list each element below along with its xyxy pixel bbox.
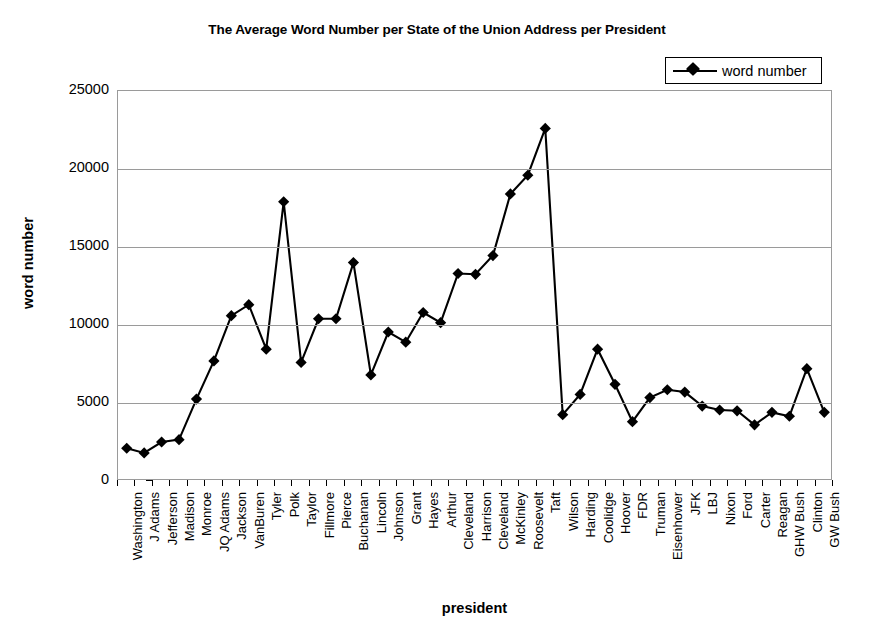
- x-axis-tick-label: Cleveland: [497, 492, 510, 550]
- x-axis-tick-mark: [396, 480, 397, 486]
- x-axis-tick-mark: [570, 480, 571, 486]
- x-axis-tick-label: Lincoln: [375, 492, 388, 533]
- x-axis-tick-mark: [675, 480, 676, 486]
- x-axis-tick-label: JQ Adams: [218, 492, 231, 552]
- x-axis-tick-label: Fillmore: [323, 492, 336, 538]
- x-axis-tick-label: FDR: [636, 492, 649, 519]
- chart-container: The Average Word Number per State of the…: [0, 0, 874, 635]
- x-axis-tick-label: Buchanan: [357, 492, 370, 551]
- x-axis-tick-label: JFK: [689, 492, 702, 515]
- y-axis-tick-label: 0: [39, 472, 109, 487]
- data-point-marker: [156, 436, 167, 447]
- x-axis-tick-mark: [134, 480, 135, 486]
- x-axis-tick-mark: [448, 480, 449, 486]
- data-point-marker: [400, 337, 411, 348]
- y-axis-tick-labels: 0500010000150002000025000: [35, 0, 109, 635]
- x-axis-tick-mark: [518, 480, 519, 486]
- data-point-marker: [435, 317, 446, 328]
- chart-title: The Average Word Number per State of the…: [0, 22, 874, 37]
- x-axis-tick-label: Ford: [741, 492, 754, 519]
- x-axis-tick-mark: [623, 480, 624, 486]
- x-axis-tick-label: VanBuren: [253, 492, 266, 549]
- x-axis-tick-mark: [815, 480, 816, 486]
- legend-label: word number: [722, 63, 807, 79]
- x-axis-tick-label: Carter: [759, 492, 772, 528]
- x-axis-tick-mark: [745, 480, 746, 486]
- x-axis-tick-mark: [501, 480, 502, 486]
- x-axis-tick-mark: [239, 480, 240, 486]
- x-axis-tick-label: Johnson: [392, 492, 405, 541]
- data-point-marker: [208, 355, 219, 366]
- y-axis-tick-label: 5000: [39, 394, 109, 409]
- data-point-marker: [348, 257, 359, 268]
- x-axis-tick-mark: [379, 480, 380, 486]
- x-axis-tick-mark: [692, 480, 693, 486]
- x-axis-tick-mark: [762, 480, 763, 486]
- x-axis-tick-mark: [588, 480, 589, 486]
- x-axis-tick-label: Jackson: [235, 492, 248, 540]
- x-axis-tick-mark: [222, 480, 223, 486]
- x-axis-tick-label: Jefferson: [166, 492, 179, 545]
- x-axis-tick-mark: [117, 480, 118, 486]
- x-axis-tick-label: LBJ: [706, 492, 719, 514]
- x-axis-tick-label: Arthur: [445, 492, 458, 527]
- x-axis-tick-mark: [204, 480, 205, 486]
- y-axis-tick-label: 10000: [39, 316, 109, 331]
- chart-legend: word number: [665, 57, 822, 84]
- x-axis-tick-mark: [658, 480, 659, 486]
- x-axis-tick-label: Hayes: [427, 492, 440, 529]
- x-axis-tick-mark: [483, 480, 484, 486]
- data-point-marker: [139, 447, 150, 458]
- x-axis-tick-label: Pierce: [340, 492, 353, 529]
- x-axis-tick-mark: [257, 480, 258, 486]
- x-axis-title: president: [117, 600, 832, 616]
- x-axis-tick-mark: [291, 480, 292, 486]
- x-axis-tick-label: GW Bush: [828, 492, 841, 548]
- data-point-marker: [609, 379, 620, 390]
- x-axis-tick-label: Roosevelt: [532, 492, 545, 550]
- data-point-marker: [592, 344, 603, 355]
- x-axis-tick-label: Hoover: [619, 492, 632, 534]
- x-axis-tick-label: Nixon: [724, 492, 737, 525]
- x-axis-tick-label: Eisenhower: [671, 492, 684, 560]
- x-axis-tick-mark: [780, 480, 781, 486]
- x-axis-tick-mark: [797, 480, 798, 486]
- gridline: [118, 403, 831, 404]
- x-axis-tick-mark: [727, 480, 728, 486]
- y-axis-title: word number: [20, 168, 36, 358]
- x-axis-tick-mark: [274, 480, 275, 486]
- x-axis-tick-label: Coolidge: [602, 492, 615, 543]
- x-axis-tick-mark: [187, 480, 188, 486]
- data-point-marker: [819, 407, 830, 418]
- x-axis-tick-label: Cleveland: [462, 492, 475, 550]
- x-axis-tick-mark: [431, 480, 432, 486]
- plot-area: [117, 90, 832, 480]
- x-axis-tick-label: GHW Bush: [793, 492, 806, 557]
- x-axis-tick-label: Clinton: [811, 492, 824, 532]
- x-axis-tick-label: McKinley: [514, 492, 527, 545]
- data-point-marker: [662, 384, 673, 395]
- data-point-marker: [243, 299, 254, 310]
- gridline: [118, 325, 831, 326]
- data-point-marker: [714, 404, 725, 415]
- x-axis-tick-mark: [344, 480, 345, 486]
- x-axis-tick-mark: [466, 480, 467, 486]
- x-axis-tick-label: Wilson: [567, 492, 580, 531]
- x-axis-tick-label: Harding: [584, 492, 597, 538]
- x-axis-tick-mark: [553, 480, 554, 486]
- data-point-marker: [418, 307, 429, 318]
- x-axis-tick-label: Washington: [131, 492, 144, 560]
- data-point-marker: [261, 344, 272, 355]
- x-axis-tick-label: Madison: [183, 492, 196, 541]
- x-axis-tick-mark: [361, 480, 362, 486]
- x-axis-tick-mark: [326, 480, 327, 486]
- x-axis-tick-label: Taylor: [305, 492, 318, 527]
- data-point-marker: [452, 268, 463, 279]
- data-point-marker: [383, 326, 394, 337]
- x-axis-tick-mark: [640, 480, 641, 486]
- gridline: [118, 169, 831, 170]
- x-axis-tick-label: Grant: [410, 492, 423, 525]
- x-axis-tick-label: Harrison: [480, 492, 493, 541]
- data-point-marker: [173, 434, 184, 445]
- x-axis-tick-mark: [169, 480, 170, 486]
